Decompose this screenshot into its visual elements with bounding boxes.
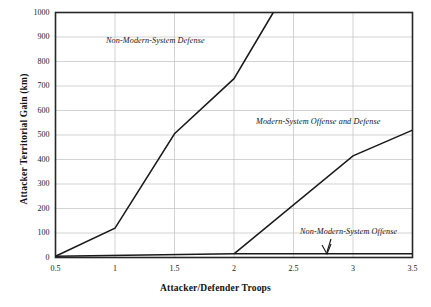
x-tick-label: 2.5: [279, 264, 309, 273]
annotation-non-modern-system-offense: Non-Modern-System Offense: [300, 227, 397, 236]
y-tick-label: 700: [20, 81, 50, 90]
gridlines: [56, 13, 413, 258]
y-tick-label: 600: [20, 106, 50, 115]
y-tick-label: 200: [20, 204, 50, 213]
y-tick-label: 300: [20, 179, 50, 188]
annotation-non-modern-system-defense: Non-Modern-System Defense: [106, 36, 205, 45]
y-tick-label: 500: [20, 130, 50, 139]
y-tick-label: 800: [20, 57, 50, 66]
chart-figure: Attacker Territorial Gain (km) Attacker/…: [0, 0, 431, 307]
plot-area: [0, 0, 431, 307]
x-tick-label: 0.5: [41, 264, 71, 273]
x-tick-label: 2: [219, 264, 249, 273]
x-tick-label: 3: [338, 264, 368, 273]
down-arrow-head-icon: [322, 244, 331, 254]
annotation-modern-system-offense-and-defense: Modern-System Offense and Defense: [256, 117, 381, 126]
y-tick-label: 400: [20, 155, 50, 164]
y-tick-label: 1000: [20, 8, 50, 17]
y-tick-label: 900: [20, 32, 50, 41]
x-tick-label: 3.5: [398, 264, 428, 273]
y-tick-label: 0: [20, 253, 50, 262]
x-tick-label: 1: [100, 264, 130, 273]
series-line-non-modern-system-defense: [56, 13, 274, 257]
x-tick-label: 1.5: [160, 264, 190, 273]
y-tick-label: 100: [20, 228, 50, 237]
annotation-arrow-group: [322, 239, 331, 254]
